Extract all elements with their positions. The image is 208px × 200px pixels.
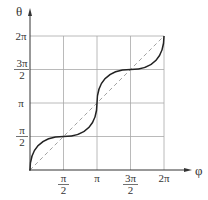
y-axis-label: θ [16,4,22,19]
y-tick-pi-over-2-num: π [19,124,25,136]
x-tick-labels: π 2 π 3π 2 2π [58,172,170,196]
y-tick-labels: π 2 π 3π 2 2π [14,30,29,148]
chart: θ φ π 2 π 3π 2 2π π 2 π 3π 2 2π [0,0,208,200]
x-tick-pi: π [94,172,100,184]
x-tick-3pi-over-2-den: 2 [128,184,134,196]
y-tick-3pi-over-2-den: 2 [19,69,25,81]
x-axis-label: φ [195,163,203,178]
y-tick-pi-over-2-den: 2 [19,136,25,148]
x-tick-pi-over-2-den: 2 [61,184,67,196]
y-axis-arrow-icon [28,8,32,16]
x-tick-pi-over-2-num: π [61,172,67,184]
x-tick-2pi: 2π [158,172,170,184]
y-tick-2pi: 2π [15,30,27,42]
x-tick-3pi-over-2-num: 3π [125,172,137,184]
x-axis-arrow-icon [184,168,192,172]
y-tick-3pi-over-2-num: 3π [16,57,28,69]
y-tick-pi: π [18,97,24,109]
